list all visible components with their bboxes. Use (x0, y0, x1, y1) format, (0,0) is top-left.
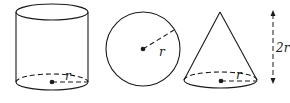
sphere-center-dot (141, 47, 145, 51)
height-label: 2r (275, 41, 290, 55)
shapes-diagram: r r r 2r (0, 0, 290, 103)
arrow-down-icon (271, 78, 276, 84)
diagram-canvas: r r r 2r (0, 0, 290, 103)
sphere (106, 12, 180, 86)
cylinder-top-ellipse (16, 4, 88, 20)
cone-radius-label: r (236, 68, 243, 82)
height-indicator (271, 10, 276, 84)
cone-left-side (184, 12, 220, 80)
cylinder-center-dot (50, 80, 54, 84)
cone (184, 12, 257, 88)
arrow-up-icon (271, 10, 276, 16)
cylinder (16, 4, 88, 90)
sphere-radius-label: r (159, 45, 166, 59)
cone-center-dot (219, 79, 223, 83)
cylinder-radius-label: r (65, 69, 72, 83)
